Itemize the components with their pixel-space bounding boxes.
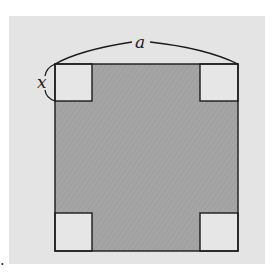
corner-square-top-right	[200, 64, 238, 101]
label-a: a	[135, 32, 145, 52]
label-x: x	[37, 72, 47, 92]
trailing-period: .	[0, 252, 4, 268]
diagram-canvas: a x .	[0, 0, 275, 280]
corner-square-top-left	[55, 64, 92, 101]
corner-square-bottom-right	[200, 213, 238, 251]
corner-square-bottom-left	[55, 213, 92, 251]
